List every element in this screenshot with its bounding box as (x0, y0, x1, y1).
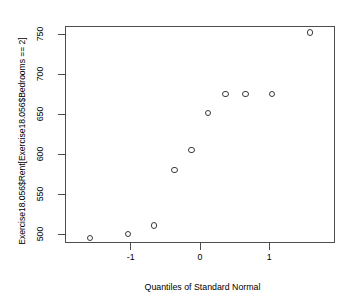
y-tick-mark (58, 114, 65, 115)
y-tick-mark (58, 74, 65, 75)
x-tick-label: 0 (185, 252, 215, 262)
x-axis-title: Quantiles of Standard Normal (60, 282, 345, 292)
y-tick-label: 750 (34, 17, 46, 51)
y-tick-mark (58, 194, 65, 195)
qq-plot-figure: Exercise18.056$Rent[Exercise18.056$Bedro… (0, 0, 345, 303)
y-tick-label: 500 (34, 217, 46, 251)
x-tick-mark (269, 243, 270, 250)
y-tick-label: 600 (34, 137, 46, 171)
y-tick-label: 650 (34, 97, 46, 131)
x-tick-mark (130, 243, 131, 250)
data-point (222, 91, 228, 97)
y-axis-title: Exercise18.056$Rent[Exercise18.056$Bedro… (11, 11, 33, 271)
data-point (151, 222, 157, 228)
y-tick-mark (58, 154, 65, 155)
y-tick-label: 550 (34, 177, 46, 211)
data-point (242, 91, 248, 97)
y-tick-label: 700 (34, 57, 46, 91)
x-tick-mark (200, 243, 201, 250)
x-tick-label: -1 (116, 252, 146, 262)
data-point (307, 29, 313, 35)
data-point (171, 167, 177, 173)
y-tick-mark (58, 34, 65, 35)
x-tick-label: 1 (254, 252, 284, 262)
y-tick-mark (58, 234, 65, 235)
plot-frame (65, 26, 335, 243)
